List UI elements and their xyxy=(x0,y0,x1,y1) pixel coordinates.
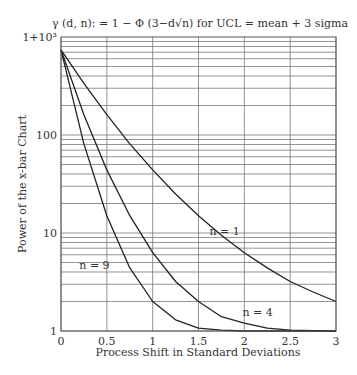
y-tick-label: 100 xyxy=(36,129,57,142)
y-tick-label: 10 xyxy=(43,227,57,240)
y-axis-label: Power of the x-bar Chart xyxy=(16,115,29,253)
chart: γ (d, n): = 1 − Φ (3−d√n) for UCL = mean… xyxy=(0,0,357,375)
x-axis-label: Process Shift in Standard Deviations xyxy=(96,346,301,359)
chart-title: γ (d, n): = 1 − Φ (3−d√n) for UCL = mean… xyxy=(52,17,348,30)
series-label: n = 4 xyxy=(243,306,273,319)
y-tick-label: 1+10³ xyxy=(22,31,57,44)
tick-labels: 00.511.522.531101001+10³ xyxy=(22,31,339,348)
grid xyxy=(61,37,336,331)
y-tick-label: 1 xyxy=(50,325,57,338)
series-label: n = 9 xyxy=(79,259,109,272)
series-label: n = 1 xyxy=(210,225,240,238)
x-tick-label: 0 xyxy=(58,335,65,348)
x-tick-label: 3 xyxy=(333,335,340,348)
